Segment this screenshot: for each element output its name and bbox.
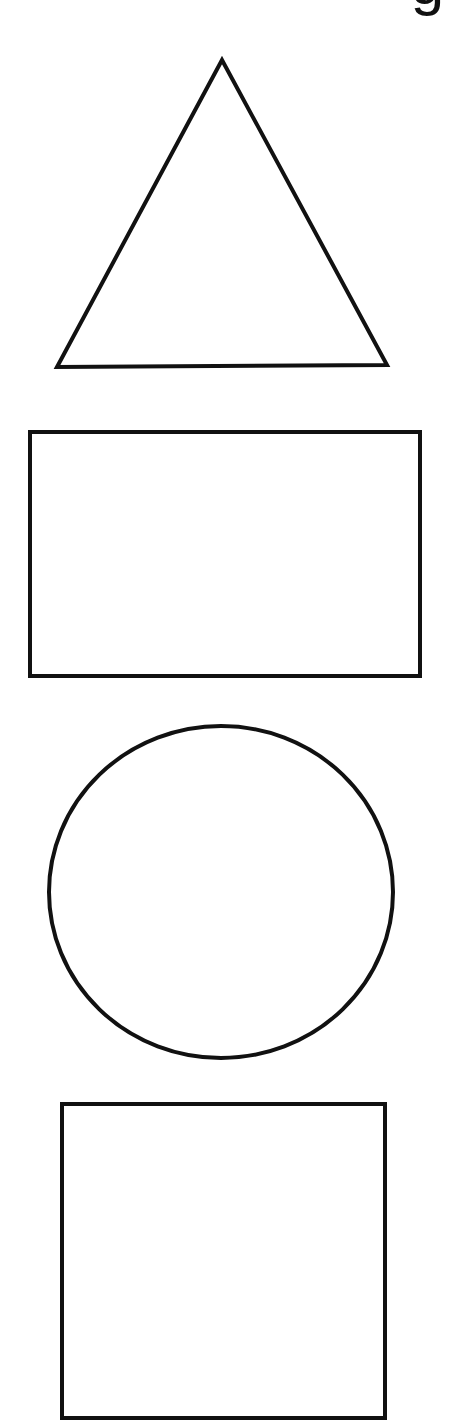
circle-shape [49,726,393,1058]
square-shape [62,1104,385,1418]
shapes-canvas [0,0,452,1423]
triangle-shape [57,60,387,367]
rectangle-shape [30,432,420,676]
